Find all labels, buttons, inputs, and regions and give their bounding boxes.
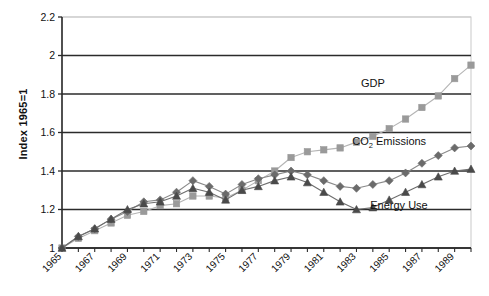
data-point-diamond — [352, 184, 360, 192]
series-line — [62, 65, 471, 248]
x-tick-label: 1977 — [236, 250, 260, 274]
x-tick-label-group: 1971 — [138, 250, 162, 274]
data-point-diamond — [467, 142, 475, 150]
data-point-square — [435, 93, 441, 99]
x-tick-label: 1987 — [400, 250, 424, 274]
data-point-diamond — [303, 171, 311, 179]
data-point-square — [419, 104, 425, 110]
y-tick-label: 2 — [49, 49, 55, 61]
y-tick-label: 1.4 — [40, 165, 55, 177]
y-tick-label: 1.6 — [40, 126, 55, 138]
data-point-square — [190, 193, 196, 199]
data-point-square — [468, 62, 474, 68]
data-point-square — [386, 125, 392, 131]
annotation-co2-base: CO — [352, 135, 369, 147]
data-point-square — [173, 201, 179, 207]
data-point-square — [402, 116, 408, 122]
x-tick-label: 1983 — [334, 250, 358, 274]
data-point-diamond — [418, 159, 426, 167]
data-point-triangle — [320, 188, 328, 195]
y-tick-label: 1.2 — [40, 203, 55, 215]
x-tick-label-group: 1981 — [302, 250, 326, 274]
data-point-triangle — [336, 198, 344, 205]
x-tick-label: 1989 — [433, 250, 457, 274]
data-point-diamond — [189, 177, 197, 185]
x-tick-label: 1973 — [171, 250, 195, 274]
x-tick-label-group: 1979 — [269, 250, 293, 274]
x-tick-label: 1967 — [73, 250, 97, 274]
annotation-co2-rest: Emissions — [373, 135, 427, 147]
x-tick-label-group: 1965 — [40, 250, 64, 274]
annotation-energy-use: Energy Use — [370, 199, 427, 211]
data-point-square — [288, 154, 294, 160]
line-chart-svg: 11.21.41.61.822.219651967196919711973197… — [0, 0, 489, 296]
x-tick-label-group: 1975 — [204, 250, 228, 274]
x-tick-label: 1981 — [302, 250, 326, 274]
data-point-triangle — [402, 188, 410, 195]
chart-figure: Index 1965=1 11.21.41.61.822.21965196719… — [0, 0, 489, 296]
data-point-square — [141, 208, 147, 214]
data-point-square — [337, 145, 343, 151]
data-point-square — [321, 147, 327, 153]
data-point-diamond — [451, 144, 459, 152]
x-tick-label-group: 1983 — [334, 250, 358, 274]
data-point-diamond — [320, 177, 328, 185]
data-point-triangle — [303, 179, 311, 186]
data-point-square — [304, 149, 310, 155]
data-point-diamond — [336, 182, 344, 190]
x-tick-label: 1969 — [105, 250, 129, 274]
data-point-square — [451, 75, 457, 81]
x-tick-label: 1979 — [269, 250, 293, 274]
y-tick-label: 1.8 — [40, 88, 55, 100]
data-point-triangle — [189, 184, 197, 191]
x-tick-label: 1975 — [204, 250, 228, 274]
series-co2-emissions — [58, 142, 475, 252]
series-gdp — [59, 62, 474, 251]
x-tick-label-group: 1977 — [236, 250, 260, 274]
annotation-gdp: GDP — [361, 77, 385, 89]
data-point-triangle — [434, 173, 442, 180]
data-point-triangle — [467, 165, 475, 172]
x-tick-label: 1985 — [367, 250, 391, 274]
data-point-diamond — [385, 177, 393, 185]
x-tick-label-group: 1989 — [433, 250, 457, 274]
x-tick-label: 1971 — [138, 250, 162, 274]
x-tick-label-group: 1985 — [367, 250, 391, 274]
plot-area-container: 11.21.41.61.822.219651967196919711973197… — [0, 0, 489, 296]
x-tick-label-group: 1969 — [105, 250, 129, 274]
data-point-diamond — [402, 169, 410, 177]
data-point-triangle — [287, 173, 295, 180]
annotation-co2-emissions: CO2 Emissions — [352, 135, 426, 150]
x-tick-label: 1965 — [40, 250, 64, 274]
y-tick-label: 2.2 — [40, 11, 55, 23]
data-point-diamond — [434, 152, 442, 160]
data-point-diamond — [369, 180, 377, 188]
series-line — [62, 146, 471, 248]
x-tick-label-group: 1973 — [171, 250, 195, 274]
x-tick-label-group: 1967 — [73, 250, 97, 274]
data-point-triangle — [418, 180, 426, 187]
x-tick-label-group: 1987 — [400, 250, 424, 274]
